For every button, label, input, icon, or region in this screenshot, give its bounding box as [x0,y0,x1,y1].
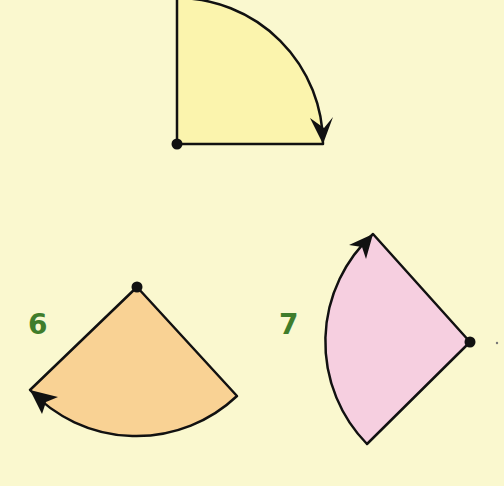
rotation-diagram [0,0,504,486]
centre-point-7 [465,337,476,348]
sector-7-fill [325,234,470,444]
sector-6 [30,282,237,437]
sector-7 [325,234,498,444]
centre-point-6 [132,282,143,293]
sector-top [172,0,334,150]
centre-point-top [172,139,183,150]
label-7: 7 [279,311,298,339]
label-6: 6 [28,311,47,339]
speck [496,342,498,344]
sector-6-fill [30,287,237,436]
sector-top-fill [177,0,323,144]
